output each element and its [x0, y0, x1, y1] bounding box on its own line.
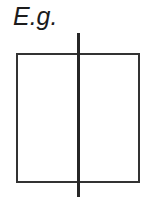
- diagram-canvas: [0, 0, 146, 197]
- figure-root: E.g.: [0, 0, 146, 197]
